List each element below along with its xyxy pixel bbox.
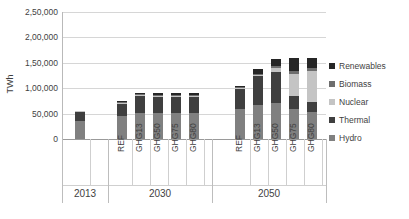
- bar-stack: [75, 111, 85, 139]
- bar-segment-renewables: [307, 58, 317, 68]
- legend-item-nuclear[interactable]: Nuclear: [329, 93, 407, 111]
- bar-stack: [235, 86, 245, 139]
- x-axis-tick-label: GHG13: [252, 123, 262, 152]
- legend-swatch-icon: [329, 99, 335, 105]
- bar-segment-hydro: [75, 121, 85, 139]
- x-axis-tick-label: GHG75: [170, 123, 180, 152]
- legend-label: Hydro: [339, 134, 362, 143]
- y-axis-tick-label: 1,00,000: [14, 83, 58, 93]
- bar-segment-thermal: [117, 104, 127, 115]
- legend-item-hydro[interactable]: Hydro: [329, 129, 407, 147]
- x-axis-group-separator: [326, 139, 327, 203]
- bar-segment-thermal: [153, 97, 163, 113]
- legend-swatch-icon: [329, 117, 335, 123]
- x-axis-tick-label: REF: [116, 135, 126, 152]
- x-axis-group-line: [62, 185, 326, 186]
- x-axis-group-label: 2030: [108, 188, 212, 199]
- legend-swatch-icon: [329, 135, 335, 141]
- x-axis-tick: [304, 139, 305, 185]
- x-axis-tick-label: GHG50: [270, 123, 280, 152]
- x-axis-tick-label: GHG80: [306, 123, 316, 152]
- y-axis-tick-label: 0: [14, 134, 58, 144]
- x-axis-group-label: 2013: [62, 188, 108, 199]
- bar-segment-nuclear: [307, 71, 317, 102]
- legend-label: Thermal: [339, 116, 370, 125]
- legend-item-thermal[interactable]: Thermal: [329, 111, 407, 129]
- legend-label: Biomass: [339, 80, 372, 89]
- x-axis-tick-label: GHG80: [188, 123, 198, 152]
- x-axis-tick-label: GHG75: [288, 123, 298, 152]
- x-axis-tick: [90, 139, 91, 185]
- legend-label: Nuclear: [339, 98, 368, 107]
- bar-segment-renewables: [271, 59, 281, 66]
- legend-label: Renewables: [339, 62, 386, 71]
- y-axis-tick-label: 50,000: [14, 109, 58, 119]
- x-axis-tick: [150, 139, 151, 185]
- bar-segment-thermal: [235, 89, 245, 108]
- x-axis-tick: [168, 139, 169, 185]
- y-axis-tick-label: 1,50,000: [14, 58, 58, 68]
- bar-segment-thermal: [271, 72, 281, 103]
- bar-segment-renewables: [289, 58, 299, 71]
- y-axis-title-label: TWh: [4, 75, 14, 94]
- bar-segment-thermal: [253, 76, 263, 105]
- x-axis-tick-label: GHG13: [134, 123, 144, 152]
- bar-segment-thermal: [307, 102, 317, 111]
- legend-item-renewables[interactable]: Renewables: [329, 57, 407, 75]
- x-axis-tick-label: GHG50: [152, 123, 162, 152]
- y-axis-tick-label: 2,50,000: [14, 7, 58, 17]
- x-axis-tick: [186, 139, 187, 185]
- x-axis-tick-label: REF: [234, 135, 244, 152]
- bar-segment-nuclear: [289, 74, 299, 96]
- bar-segment-thermal: [189, 97, 199, 112]
- stacked-bar-chart: TWh 050,0001,00,0001,50,0002,00,0002,50,…: [0, 0, 409, 219]
- legend-item-biomass[interactable]: Biomass: [329, 75, 407, 93]
- x-axis-tick: [322, 139, 323, 185]
- x-axis-tick: [286, 139, 287, 185]
- legend: RenewablesBiomassNuclearThermalHydro: [329, 57, 407, 147]
- legend-swatch-icon: [329, 63, 335, 69]
- x-axis-tick: [132, 139, 133, 185]
- bar-segment-thermal: [75, 112, 85, 121]
- legend-swatch-icon: [329, 81, 335, 87]
- x-axis-tick: [204, 139, 205, 185]
- bar-segment-thermal: [289, 96, 299, 108]
- bar-segment-thermal: [135, 96, 145, 112]
- bar-stack: [117, 101, 127, 139]
- x-axis-group-label: 2050: [212, 188, 326, 199]
- y-axis-tick-label: 2,00,000: [14, 32, 58, 42]
- x-axis-tick: [250, 139, 251, 185]
- x-axis-tick: [268, 139, 269, 185]
- bar-segment-thermal: [171, 97, 181, 112]
- bars-layer: [62, 12, 326, 139]
